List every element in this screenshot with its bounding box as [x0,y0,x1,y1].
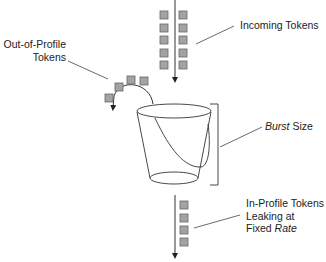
in-profile-text-line3: Fixed Rate [246,222,324,235]
out-of-profile-label: Out-of-Profile Tokens [0,38,66,63]
burst-size-label: Burst Size [265,120,313,133]
in-profile-leader-line [194,215,240,228]
size-text: Size [290,120,313,132]
token-icon [179,36,187,44]
rate-text: Rate [275,222,297,234]
token-icon [179,61,187,69]
token-icon [105,94,113,102]
incoming-leader-line [196,26,234,44]
in-profile-text-line2: Leaking at [246,210,324,223]
bucket-left-side [137,112,150,178]
token-icon [180,238,188,246]
fixed-text: Fixed [246,222,275,234]
incoming-tokens [160,11,187,69]
leaking-tokens [180,201,188,246]
token-icon [127,76,135,84]
token-icon [180,201,188,209]
bucket-rim [137,104,211,118]
token-icon [179,49,187,57]
out-of-profile-text-line1: Out-of-Profile [0,38,66,51]
token-icon [160,24,168,32]
burst-text: Burst [265,120,290,132]
token-icon [115,83,123,91]
burst-size-bracket [210,104,218,185]
in-profile-label: In-Profile Tokens Leaking at Fixed Rate [246,197,324,235]
out-of-profile-leader-line [68,61,108,79]
token-icon [179,24,187,32]
token-icon [160,49,168,57]
token-icon [160,36,168,44]
out-of-profile-text-line2: Tokens [0,51,66,64]
incoming-tokens-text: Incoming Tokens [240,19,319,31]
in-profile-text-line1: In-Profile Tokens [246,197,324,210]
bucket-icon [137,104,211,184]
token-icon [140,77,148,85]
bucket-bottom [150,172,198,184]
token-icon [160,11,168,19]
token-icon [179,11,187,19]
incoming-tokens-label: Incoming Tokens [240,19,319,32]
token-icon [160,61,168,69]
token-icon [180,214,188,222]
burst-leader-line [220,127,262,147]
out-of-profile-tokens [105,76,148,102]
token-icon [180,226,188,234]
